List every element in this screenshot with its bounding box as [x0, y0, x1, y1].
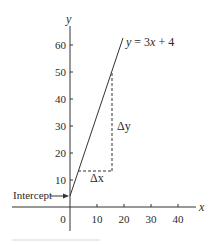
svg-text:20: 20 — [119, 213, 131, 225]
svg-text:40: 40 — [55, 93, 67, 105]
svg-text:10: 10 — [55, 174, 67, 186]
arrowhead-icon — [63, 194, 69, 199]
y-tick-labels: 10 20 30 40 50 60 — [55, 39, 67, 186]
delta-x-label: Δx — [90, 171, 104, 185]
y-axis-label: y — [65, 12, 72, 26]
svg-text:10: 10 — [92, 213, 104, 225]
intercept-label: Intercept — [13, 189, 52, 201]
svg-text:20: 20 — [55, 147, 67, 159]
x-tick-labels: 0 10 20 30 40 — [60, 213, 184, 225]
svg-text:0: 0 — [60, 213, 66, 225]
svg-text:30: 30 — [146, 213, 158, 225]
line-chart: x y 10 20 30 40 50 60 0 10 20 30 40 Δx Δ… — [0, 0, 213, 245]
svg-text:30: 30 — [55, 120, 67, 132]
delta-y-label: Δy — [117, 119, 131, 133]
svg-text:60: 60 — [55, 39, 67, 51]
svg-text:40: 40 — [173, 213, 185, 225]
equation-label: y = 3x + 4 — [125, 35, 174, 49]
x-axis-label: x — [198, 200, 205, 214]
svg-text:50: 50 — [55, 66, 67, 78]
